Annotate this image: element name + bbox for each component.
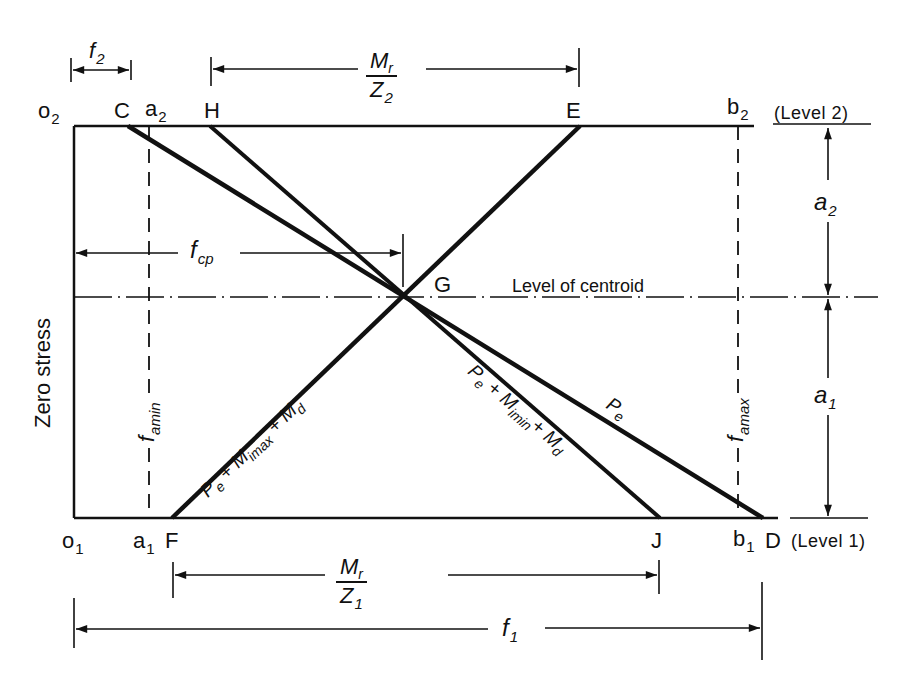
label-o1: o1 bbox=[62, 530, 84, 552]
label-level-1: (Level 1) bbox=[791, 532, 866, 550]
label-mr-over-z2: Mr Z2 bbox=[366, 50, 397, 101]
label-a2-dim: a2 bbox=[814, 190, 837, 214]
label-f: F bbox=[165, 530, 178, 552]
label-h: H bbox=[204, 100, 220, 122]
label-a2: a2 bbox=[145, 98, 167, 120]
label-f1: f1 bbox=[502, 616, 518, 640]
label-level-of-centroid: Level of centroid bbox=[512, 277, 644, 295]
label-famax: famax bbox=[723, 394, 749, 446]
label-o2: o2 bbox=[38, 100, 60, 122]
mr-z1-dimension bbox=[173, 560, 659, 598]
label-b1: b1 bbox=[733, 528, 755, 550]
label-famin: famin bbox=[134, 398, 160, 446]
frame bbox=[74, 126, 878, 518]
line-pe-mimin-md bbox=[210, 126, 660, 518]
label-b2: b2 bbox=[727, 96, 749, 118]
label-fcp: fcp bbox=[190, 238, 214, 262]
label-j: J bbox=[651, 530, 662, 552]
label-c: C bbox=[114, 100, 130, 122]
fcp-dimension bbox=[76, 234, 403, 287]
label-mr-over-z1: Mr Z1 bbox=[336, 556, 367, 607]
label-g: G bbox=[434, 274, 451, 296]
label-d: D bbox=[765, 530, 781, 552]
label-a1-dim: a1 bbox=[814, 383, 837, 407]
label-f2: f2 bbox=[89, 40, 104, 62]
a-dimensions bbox=[773, 124, 871, 518]
label-level-2: (Level 2) bbox=[774, 104, 849, 122]
label-a1: a1 bbox=[133, 530, 155, 552]
label-zero-stress: Zero stress bbox=[30, 318, 56, 428]
label-e: E bbox=[566, 100, 581, 122]
